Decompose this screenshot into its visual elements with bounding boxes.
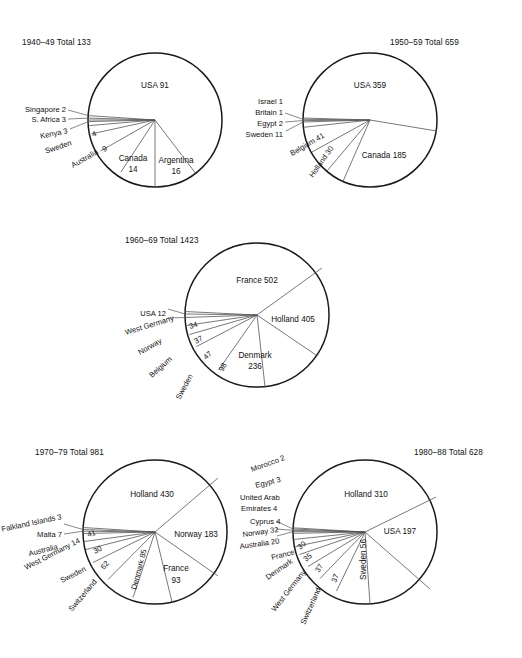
chart5-label-denmark: Denmark <box>264 556 295 581</box>
chart4-label-sweden: Sweden <box>59 564 88 584</box>
pie-chart-1940-49: 1940–49 Total 133 USA 91 Singapore 2 S. … <box>22 38 222 187</box>
chart5-label-uae-line2: Emirates 4 <box>241 504 277 513</box>
chart1-label-usa: USA 91 <box>141 81 169 90</box>
chart1-label-singapore: Singapore 2 <box>25 105 66 114</box>
chart5-label-morocco: Morocco 2 <box>250 453 286 474</box>
chart1-leaders <box>68 110 89 129</box>
chart4-label-france: France <box>163 564 189 573</box>
chart2-label-israel: Israel 1 <box>258 97 283 106</box>
chart5-label-holland: Holland 310 <box>344 490 388 499</box>
chart5-label-sweden: Sweden 56 <box>359 539 368 580</box>
chart2-leaders <box>285 113 303 131</box>
chart5-label-switzerland: Switzerland <box>299 586 323 626</box>
chart5-title: 1980–88 Total 628 <box>414 448 483 457</box>
chart4-leaders <box>64 524 83 534</box>
chart5-label-france: France <box>270 547 295 561</box>
chart1-label-australia: Australia <box>70 147 101 170</box>
pie-chart-figure: 1940–49 Total 133 USA 91 Singapore 2 S. … <box>0 0 522 658</box>
chart2-label-canada: Canada 185 <box>362 151 407 160</box>
chart3-label-denmark-value: 236 <box>248 362 262 371</box>
chart1-label-argentina: Argentina <box>158 156 193 165</box>
pie-chart-1960-69: 1960–69 Total 1423 France 502 Holland 40… <box>124 236 329 401</box>
chart3-label-norway: Norway <box>137 336 164 357</box>
pie-chart-1970-79: 1970–79 Total 981 Holland 430 Norway 183… <box>1 448 227 613</box>
chart4-label-norway: Norway 183 <box>174 530 218 539</box>
chart1-title: 1940–49 Total 133 <box>22 38 91 47</box>
chart4-label-holland: Holland 430 <box>130 490 174 499</box>
chart4-label-switzerland: Switzerland <box>67 577 99 613</box>
chart2-label-egypt: Egypt 2 <box>257 119 283 128</box>
chart3-label-belgium: Belgium <box>147 354 173 379</box>
chart1-label-argentina-value: 16 <box>171 167 181 176</box>
chart1-label-south-africa: S. Africa 3 <box>31 115 66 124</box>
chart3-label-denmark: Denmark <box>238 351 272 360</box>
chart1-label-canada: Canada <box>119 154 148 163</box>
chart4-title: 1970–79 Total 981 <box>35 448 104 457</box>
chart4-label-france-value: 93 <box>171 576 181 585</box>
chart5-label-usa: USA 197 <box>384 527 417 536</box>
chart5-label-uae-line1: United Arab <box>240 493 280 502</box>
pie-chart-1980-88: 1980–88 Total 628 Holland 310 USA 197 Mo… <box>239 448 483 626</box>
chart4-label-malta: Malta 7 <box>37 530 62 539</box>
charts-svg: 1940–49 Total 133 USA 91 Singapore 2 S. … <box>0 0 522 658</box>
chart2-label-sweden: Sweden 11 <box>246 130 283 139</box>
chart1-label-sweden: Sweden <box>44 138 73 155</box>
chart3-label-holland: Holland 405 <box>271 315 315 324</box>
chart3-label-france: France 502 <box>236 276 278 285</box>
chart3-label-sweden: Sweden <box>174 372 195 400</box>
chart3-title: 1960–69 Total 1423 <box>125 236 199 245</box>
chart2-label-britain: Britain 1 <box>255 108 283 117</box>
chart5-label-egypt: Egypt 3 <box>254 475 281 490</box>
chart1-label-kenya: Kenya 3 <box>39 126 68 141</box>
chart2-title: 1950–59 Total 659 <box>390 38 459 47</box>
chart1-label-canada-value: 14 <box>128 165 138 174</box>
pie-chart-1950-59: 1950–59 Total 659 USA 359 Israel 1 Brita… <box>246 38 460 187</box>
chart2-label-usa: USA 359 <box>354 81 387 90</box>
